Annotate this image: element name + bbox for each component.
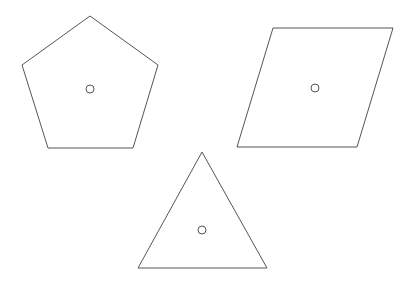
pentagon-center-marker: [86, 85, 94, 93]
parallelogram-shape: [237, 28, 393, 147]
parallelogram-center-marker: [311, 84, 319, 92]
parallelogram-outline: [237, 28, 393, 147]
pentagon-outline: [22, 16, 158, 148]
triangle-shape: [138, 152, 267, 268]
triangle-center-marker: [198, 226, 206, 234]
pentagon-shape: [22, 16, 158, 148]
triangle-outline: [138, 152, 267, 268]
shapes-svg: [0, 0, 408, 282]
diagram-canvas: [0, 0, 408, 282]
